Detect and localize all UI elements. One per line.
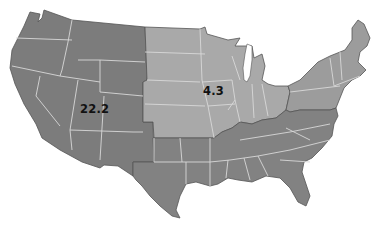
region-northeast [286, 20, 370, 112]
us-map [0, 0, 380, 245]
label-midwest-value: 4.3 [203, 84, 224, 98]
label-west-value: 22.2 [80, 102, 109, 116]
region-west [10, 10, 154, 176]
